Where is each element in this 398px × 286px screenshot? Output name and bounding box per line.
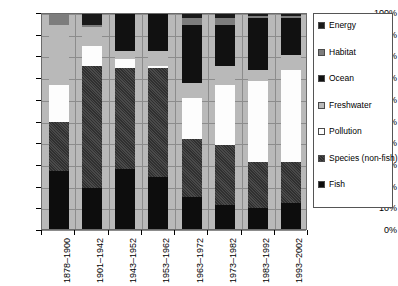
bar-segment <box>182 25 202 83</box>
bar-segment <box>49 85 69 122</box>
bar-stack <box>215 14 235 229</box>
bar-segment <box>182 83 202 98</box>
legend-label: Fish <box>329 180 345 189</box>
bar-segment <box>49 171 69 229</box>
legend-item[interactable]: Energy <box>318 20 356 31</box>
x-axis-tick-label: 1983–1992 <box>261 238 271 283</box>
legend-item[interactable]: Species (non-fish) <box>318 153 398 164</box>
bar-segment <box>215 145 235 205</box>
bar-segment <box>182 197 202 229</box>
bar-segment <box>82 188 102 229</box>
bar-stack <box>248 14 268 229</box>
legend: EnergyHabitatOceanFreshwaterPollutionSpe… <box>313 13 393 208</box>
bar-segment <box>281 70 301 162</box>
bar-segment <box>82 66 102 189</box>
bar-segment <box>281 203 301 229</box>
legend-swatch-habitat-icon <box>318 49 325 56</box>
bar-segment <box>281 18 301 55</box>
bar-segment <box>115 51 135 60</box>
bar-segment <box>215 66 235 85</box>
legend-swatch-energy-icon <box>318 22 325 29</box>
bar-segment <box>115 169 135 229</box>
bar-segment <box>49 25 69 85</box>
bar-segment <box>82 14 102 25</box>
bar-stack <box>115 14 135 229</box>
x-axis-tick-mark <box>307 230 308 235</box>
x-axis-tick-mark <box>141 230 142 235</box>
bar-segment <box>248 16 268 18</box>
bar-segment <box>248 18 268 70</box>
bar-segment <box>281 55 301 70</box>
bar-segment <box>248 70 268 81</box>
x-axis-tick-label: 1973–1982 <box>228 238 238 283</box>
legend-label: Freshwater <box>329 101 372 110</box>
bar-segment <box>182 139 202 197</box>
bar-segment <box>215 25 235 66</box>
bar-stack <box>49 14 69 229</box>
x-axis-tick-mark <box>108 230 109 235</box>
y-axis-tick-label: 0% <box>359 226 397 235</box>
bar-segment <box>248 14 268 16</box>
bar-segment <box>148 177 168 229</box>
legend-label: Species (non-fish) <box>329 154 398 163</box>
x-axis-tick-label: 1878–1900 <box>62 238 72 283</box>
bar-segment <box>215 85 235 145</box>
legend-swatch-fresh-icon <box>318 102 325 109</box>
bar-stack <box>281 14 301 229</box>
legend-swatch-pollution-icon <box>318 128 325 135</box>
x-axis-tick-label: 1953–1962 <box>161 238 171 283</box>
legend-label: Energy <box>329 21 356 30</box>
x-axis-tick-mark <box>274 230 275 235</box>
bar-segment <box>281 14 301 16</box>
bar-segment <box>115 68 135 169</box>
bar-stack <box>148 14 168 229</box>
plot-area <box>41 13 307 230</box>
bar-segment <box>182 14 202 18</box>
bar-segment <box>182 18 202 24</box>
bar-segment <box>49 14 69 25</box>
bar-segment <box>115 59 135 68</box>
bar-segment <box>148 14 168 51</box>
bar-segment <box>82 27 102 46</box>
bar-segment <box>115 14 135 51</box>
bar-segment <box>49 122 69 171</box>
legend-label: Pollution <box>329 127 362 136</box>
bar-segment <box>215 205 235 229</box>
x-axis-tick-mark <box>74 230 75 235</box>
bar-segment <box>281 162 301 203</box>
bar-segment <box>248 162 268 207</box>
legend-swatch-species-icon <box>318 155 325 162</box>
x-axis-tick-mark <box>241 230 242 235</box>
legend-item[interactable]: Freshwater <box>318 100 372 111</box>
bar-stack <box>182 14 202 229</box>
bar-segment <box>281 16 301 18</box>
legend-item[interactable]: Fish <box>318 179 345 190</box>
legend-label: Habitat <box>329 48 356 57</box>
legend-swatch-ocean-icon <box>318 75 325 82</box>
bar-segment <box>82 25 102 27</box>
x-axis-tick-mark <box>41 230 42 235</box>
bar-segment <box>182 98 202 139</box>
bar-segment <box>148 51 168 66</box>
bar-segment <box>215 14 235 18</box>
bar-segment <box>148 68 168 178</box>
bar-segment <box>215 18 235 24</box>
bar-segment <box>148 66 168 68</box>
bar-segment <box>248 81 268 163</box>
legend-item[interactable]: Habitat <box>318 47 356 58</box>
legend-label: Ocean <box>329 74 354 83</box>
x-axis-tick-label: 1901–1942 <box>95 238 105 283</box>
bar-segment <box>82 46 102 65</box>
bar-stack <box>82 14 102 229</box>
x-axis-tick-label: 1943–1952 <box>128 238 138 283</box>
x-axis-tick-mark <box>174 230 175 235</box>
bar-series-layer <box>42 14 306 229</box>
legend-item[interactable]: Pollution <box>318 126 362 137</box>
x-axis-tick-label: 1993–2002 <box>294 238 304 283</box>
x-axis-tick-mark <box>207 230 208 235</box>
legend-item[interactable]: Ocean <box>318 73 354 84</box>
x-axis-tick-label: 1963–1972 <box>195 238 205 283</box>
legend-swatch-fish-icon <box>318 181 325 188</box>
bar-segment <box>248 208 268 230</box>
